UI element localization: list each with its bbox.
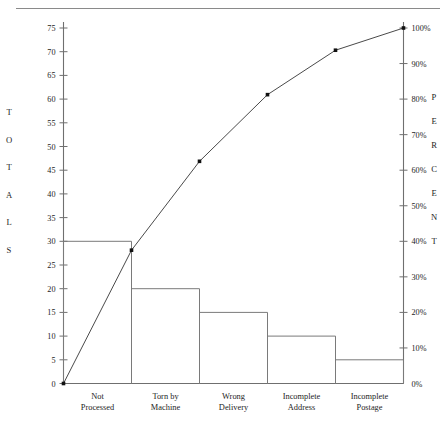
- left-axis-title-letter: A: [6, 190, 13, 200]
- right-tick-label: 10%: [412, 344, 427, 353]
- left-tick-label: 5: [51, 356, 55, 365]
- left-tick-label: 30: [47, 237, 55, 246]
- cumulative-point: [402, 26, 406, 30]
- left-tick-label: 20: [47, 285, 55, 294]
- left-axis-group: 051015202530354045505560657075 TOTALS: [6, 22, 68, 389]
- cumulative-point: [198, 160, 202, 164]
- left-tick-label: 10: [47, 332, 55, 341]
- left-tick-label: 35: [47, 214, 55, 223]
- category-label: Postage: [356, 403, 382, 412]
- right-axis-title-letter: E: [431, 188, 436, 198]
- right-axis-title-percent: PERCENT: [431, 92, 438, 246]
- cumulative-point: [266, 93, 270, 97]
- bar: [64, 241, 132, 383]
- right-axis-title-letter: N: [431, 212, 438, 222]
- right-tick-label: 90%: [412, 60, 427, 69]
- left-tick-label: 75: [47, 24, 55, 33]
- category-label: Not: [91, 392, 104, 401]
- left-axis-tick-labels: 051015202530354045505560657075: [47, 24, 55, 389]
- category-label: Processed: [81, 403, 115, 412]
- category-label: Incomplete: [351, 392, 389, 401]
- right-tick-label: 30%: [412, 273, 427, 282]
- right-axis-title-letter: P: [432, 92, 437, 102]
- left-axis-title-letter: T: [6, 162, 12, 172]
- left-tick-label: 70: [47, 48, 55, 57]
- left-tick-label: 50: [47, 143, 55, 152]
- bottom-axis-group: NotProcessedTorn byMachineWrongDeliveryI…: [64, 372, 404, 413]
- left-tick-label: 40: [47, 190, 55, 199]
- right-axis-tick-labels: 0%10%20%30%40%50%60%70%80%90%100%: [412, 24, 431, 389]
- category-label: Delivery: [219, 403, 249, 412]
- left-tick-label: 65: [47, 71, 55, 80]
- right-tick-label: 70%: [412, 131, 427, 140]
- right-tick-label: 50%: [412, 202, 427, 211]
- right-tick-label: 20%: [412, 308, 427, 317]
- right-axis-group: 0%10%20%30%40%50%60%70%80%90%100% PERCEN…: [400, 22, 438, 389]
- right-tick-label: 40%: [412, 237, 427, 246]
- left-tick-label: 0: [51, 380, 55, 389]
- cumulative-line-series: [64, 28, 404, 384]
- pareto-chart-page: 051015202530354045505560657075 TOTALS No…: [0, 0, 446, 431]
- left-tick-label: 60: [47, 95, 55, 104]
- category-label: Incomplete: [283, 392, 321, 401]
- left-axis-title-letter: L: [6, 217, 11, 227]
- right-tick-label: 0%: [412, 380, 423, 389]
- left-axis-title-letter: S: [7, 245, 12, 255]
- pareto-chart: 051015202530354045505560657075 TOTALS No…: [0, 0, 446, 431]
- cumulative-line: [64, 28, 404, 384]
- left-tick-label: 55: [47, 119, 55, 128]
- category-label: Wrong: [222, 392, 246, 401]
- category-label: Torn by: [152, 392, 179, 401]
- right-tick-label: 60%: [412, 166, 427, 175]
- right-axis-title-letter: T: [431, 236, 437, 246]
- right-tick-label: 100%: [412, 24, 431, 33]
- cumulative-line-markers: [62, 26, 406, 385]
- bar: [336, 360, 404, 384]
- category-divider-ticks: [64, 372, 404, 384]
- left-tick-label: 45: [47, 166, 55, 175]
- right-axis-title-letter: E: [431, 116, 436, 126]
- left-axis-title-letter: T: [6, 107, 12, 117]
- left-tick-label: 15: [47, 308, 55, 317]
- bar-series: [64, 241, 404, 383]
- category-label: Machine: [151, 403, 181, 412]
- right-axis-title-letter: C: [431, 164, 437, 174]
- right-tick-label: 80%: [412, 95, 427, 104]
- right-axis-title-letter: R: [431, 140, 437, 150]
- cumulative-point: [62, 382, 66, 386]
- cumulative-point: [334, 48, 338, 52]
- left-axis-title-letter: O: [6, 135, 12, 145]
- bar: [268, 336, 336, 383]
- bar: [200, 312, 268, 383]
- left-tick-label: 25: [47, 261, 55, 270]
- bar: [132, 289, 200, 384]
- left-axis-title-totals: TOTALS: [6, 107, 13, 255]
- category-label: Address: [288, 403, 315, 412]
- cumulative-point: [130, 248, 134, 252]
- category-labels: NotProcessedTorn byMachineWrongDeliveryI…: [81, 392, 389, 412]
